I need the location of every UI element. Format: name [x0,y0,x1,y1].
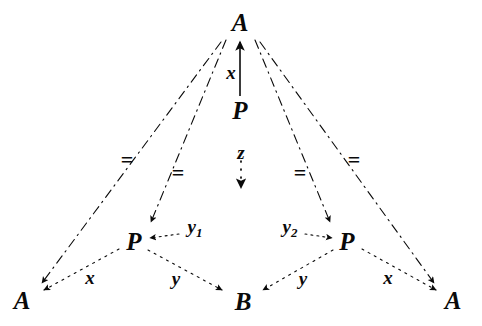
equality-marker-outer-left: = [121,149,134,171]
edge-y2-to-p-right [305,234,332,238]
equality-marker-inner-right: = [294,162,307,184]
node-p-left: P [126,229,141,254]
edge-a-top-to-p-right [255,40,330,222]
equality-marker-outer-right: = [348,149,361,171]
node-p-right: P [339,229,354,254]
edge-label-x-bottom-right: x [383,268,393,287]
edge-label-x-top: x [226,63,236,82]
edge-label-x-bottom-left: x [85,268,95,287]
node-b-bottom: B [235,289,252,314]
edge-label-y-bottom-left: y [172,269,180,288]
edge-label-y2: y2 [282,217,297,239]
edge-label-y-bottom-right: y [299,269,307,288]
edge-p-left-to-b-bottom [148,250,222,290]
diagram-edges-layer [0,0,482,326]
edge-label-z-center: z [237,143,244,162]
commutative-diagram: A P P P A B A x z y1 y2 x y y x = = = = [0,0,482,326]
node-a-bottom-right: A [445,288,462,313]
edge-p-left-to-a-bottom-left [44,249,119,290]
edge-label-y1-subscript: 1 [196,225,203,240]
edge-label-y2-subscript: 2 [291,225,298,240]
edge-label-y1-base: y [187,216,195,237]
edge-label-y2-base: y [282,216,290,237]
node-a-top: A [232,10,249,35]
equality-marker-inner-left: = [172,162,185,184]
node-a-bottom-left: A [14,288,31,313]
edge-label-y1: y1 [187,217,202,239]
node-p-top: P [232,98,247,123]
edge-a-top-to-p-left [151,40,226,222]
edge-y1-to-p-left [150,234,179,238]
